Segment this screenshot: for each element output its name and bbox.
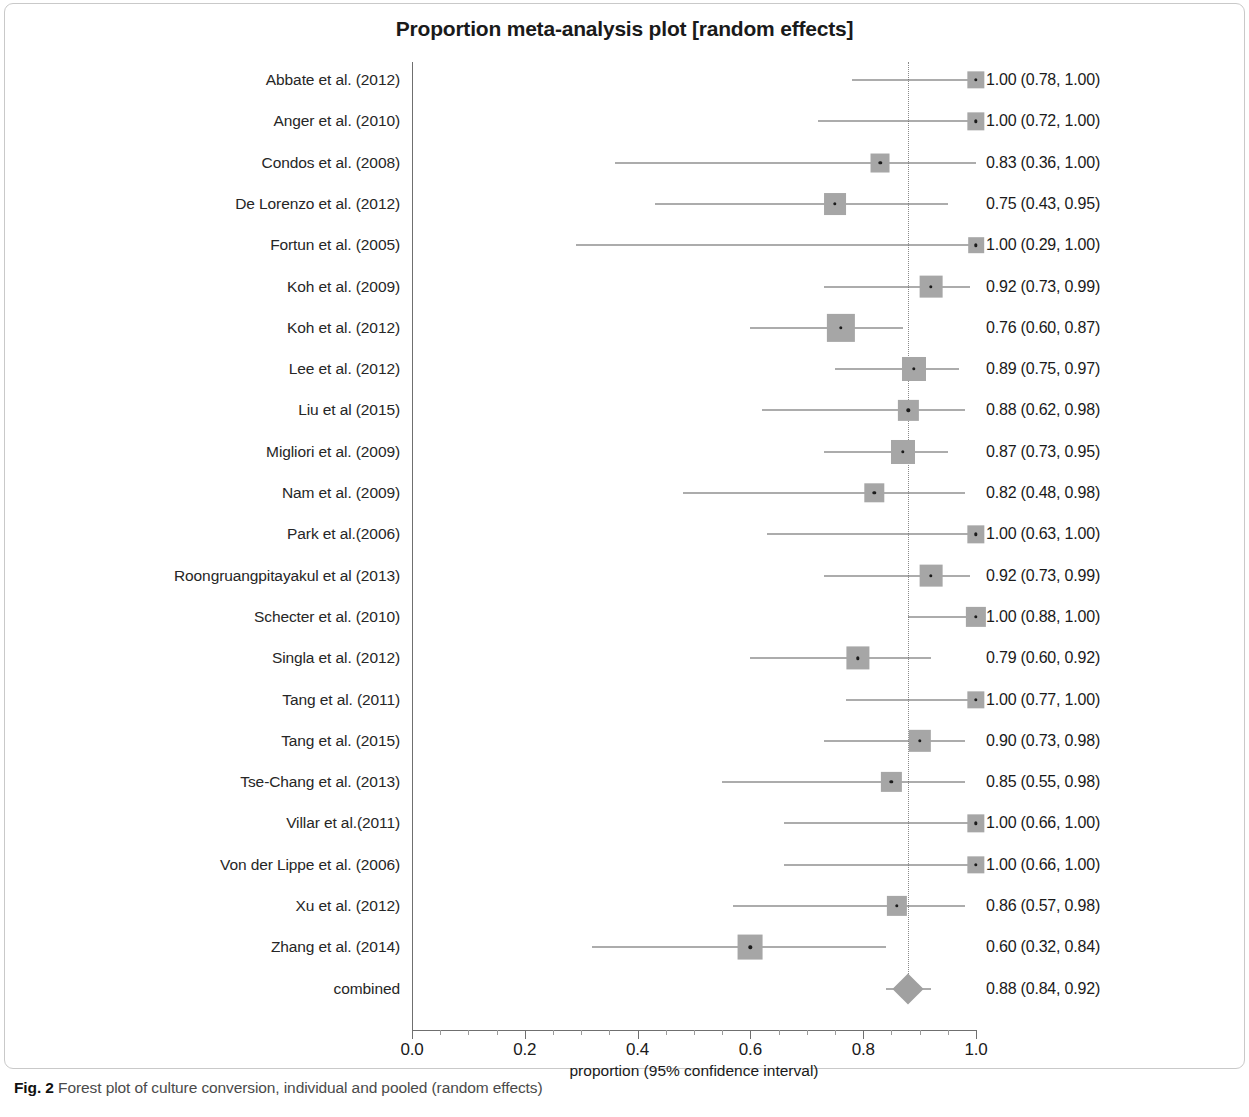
- study-label: Abbate et al. (2012): [266, 71, 400, 89]
- x-axis-title: proportion (95% confidence interval): [412, 1062, 976, 1080]
- confidence-interval-line: [750, 658, 930, 659]
- confidence-interval-line: [824, 451, 948, 452]
- confidence-interval-line: [846, 699, 976, 700]
- confidence-interval-line: [824, 740, 965, 741]
- x-axis-minor-tick: [609, 1030, 610, 1035]
- x-axis-tick: [638, 1030, 639, 1039]
- confidence-interval-line: [852, 80, 976, 81]
- confidence-interval-line: [784, 823, 976, 824]
- x-axis-tick-label: 1.0: [964, 1040, 987, 1060]
- x-axis-minor-tick: [497, 1030, 498, 1035]
- page-title: Proportion meta-analysis plot [random ef…: [0, 17, 1249, 41]
- x-axis-minor-tick: [666, 1030, 667, 1035]
- x-axis-minor-tick: [440, 1030, 441, 1035]
- x-axis-tick-label: 0.2: [513, 1040, 536, 1060]
- confidence-interval-line: [762, 410, 965, 411]
- study-estimate-text: 1.00 (0.78, 1.00): [986, 71, 1100, 89]
- confidence-interval-line: [835, 369, 959, 370]
- confidence-interval-line: [655, 203, 948, 204]
- caption-text: Forest plot of culture conversion, indiv…: [58, 1079, 542, 1096]
- study-estimate-text: 1.00 (0.88, 1.00): [986, 608, 1100, 626]
- confidence-interval-line: [615, 162, 976, 163]
- study-label: Zhang et al. (2014): [271, 938, 400, 956]
- study-label: Schecter et al. (2010): [254, 608, 400, 626]
- x-axis-minor-tick: [920, 1030, 921, 1035]
- confidence-interval-line: [576, 245, 976, 246]
- confidence-interval-line: [767, 534, 976, 535]
- study-estimate-text: 0.89 (0.75, 0.97): [986, 360, 1100, 378]
- study-label: Tang et al. (2011): [282, 691, 400, 709]
- study-estimate-text: 1.00 (0.77, 1.00): [986, 691, 1100, 709]
- study-estimate-text: 0.60 (0.32, 0.84): [986, 938, 1100, 956]
- figure-caption: Fig. 2 Forest plot of culture conversion…: [14, 1079, 1214, 1097]
- confidence-interval-line: [683, 493, 965, 494]
- study-estimate-text: 0.87 (0.73, 0.95): [986, 443, 1100, 461]
- x-axis-tick-label: 0.8: [852, 1040, 875, 1060]
- study-estimate-text: 0.83 (0.36, 1.00): [986, 154, 1100, 172]
- study-label: De Lorenzo et al. (2012): [235, 195, 400, 213]
- study-label: Xu et al. (2012): [296, 897, 400, 915]
- x-axis-minor-tick: [891, 1030, 892, 1035]
- study-estimate-text: 0.90 (0.73, 0.98): [986, 732, 1100, 750]
- study-estimate-text: 1.00 (0.66, 1.00): [986, 814, 1100, 832]
- study-estimate-text: 1.00 (0.29, 1.00): [986, 236, 1100, 254]
- confidence-interval-line: [824, 286, 971, 287]
- x-axis-tick: [412, 1030, 413, 1039]
- x-axis-minor-tick: [835, 1030, 836, 1035]
- study-estimate-text: 1.00 (0.66, 1.00): [986, 856, 1100, 874]
- study-label: Lee et al. (2012): [289, 360, 400, 378]
- pooled-effect-diamond: [893, 973, 924, 1004]
- combined-label: combined: [334, 980, 400, 998]
- study-label: Anger et al. (2010): [274, 112, 400, 130]
- study-label: Roongruangpitayakul et al (2013): [174, 567, 400, 585]
- caption-label: Fig. 2: [14, 1079, 54, 1096]
- study-label: Migliori et al. (2009): [266, 443, 400, 461]
- x-axis-tick: [976, 1030, 977, 1039]
- study-estimate-text: 0.82 (0.48, 0.98): [986, 484, 1100, 502]
- study-estimate-text: 1.00 (0.72, 1.00): [986, 112, 1100, 130]
- x-axis-tick-label: 0.4: [626, 1040, 649, 1060]
- confidence-interval-line: [784, 864, 976, 865]
- study-label: Tang et al. (2015): [281, 732, 400, 750]
- confidence-interval-line: [733, 906, 964, 907]
- x-axis-minor-tick: [468, 1030, 469, 1035]
- combined-estimate-text: 0.88 (0.84, 0.92): [986, 980, 1100, 998]
- study-label: Von der Lippe et al. (2006): [220, 856, 400, 874]
- study-label: Park et al.(2006): [287, 525, 400, 543]
- x-axis-tick-label: 0.0: [400, 1040, 423, 1060]
- study-estimate-text: 0.79 (0.60, 0.92): [986, 649, 1100, 667]
- study-estimate-text: 0.85 (0.55, 0.98): [986, 773, 1100, 791]
- study-estimate-text: 0.88 (0.62, 0.98): [986, 401, 1100, 419]
- study-estimate-text: 0.92 (0.73, 0.99): [986, 278, 1100, 296]
- study-estimate-text: 0.76 (0.60, 0.87): [986, 319, 1100, 337]
- x-axis-minor-tick: [581, 1030, 582, 1035]
- x-axis-minor-tick: [722, 1030, 723, 1035]
- x-axis-minor-tick: [948, 1030, 949, 1035]
- confidence-interval-line: [818, 121, 976, 122]
- x-axis-tick: [750, 1030, 751, 1039]
- x-axis-tick-label: 0.6: [739, 1040, 762, 1060]
- study-label: Fortun et al. (2005): [270, 236, 400, 254]
- study-label: Tse-Chang et al. (2013): [240, 773, 400, 791]
- confidence-interval-line: [722, 782, 965, 783]
- study-label: Nam et al. (2009): [282, 484, 400, 502]
- study-label: Condos et al. (2008): [262, 154, 400, 172]
- y-axis-spine: [412, 62, 413, 1030]
- study-estimate-text: 0.86 (0.57, 0.98): [986, 897, 1100, 915]
- x-axis-minor-tick: [694, 1030, 695, 1035]
- x-axis-minor-tick: [553, 1030, 554, 1035]
- study-estimate-text: 0.75 (0.43, 0.95): [986, 195, 1100, 213]
- study-label: Koh et al. (2012): [287, 319, 400, 337]
- x-axis-tick: [863, 1030, 864, 1039]
- study-label: Villar et al.(2011): [286, 814, 400, 832]
- study-label: Koh et al. (2009): [287, 278, 400, 296]
- study-estimate-text: 1.00 (0.63, 1.00): [986, 525, 1100, 543]
- study-label: Liu et al (2015): [298, 401, 400, 419]
- x-axis-minor-tick: [807, 1030, 808, 1035]
- confidence-interval-line: [824, 575, 971, 576]
- x-axis-tick: [525, 1030, 526, 1039]
- study-estimate-text: 0.92 (0.73, 0.99): [986, 567, 1100, 585]
- x-axis-minor-tick: [779, 1030, 780, 1035]
- forest-plot-figure: Proportion meta-analysis plot [random ef…: [0, 0, 1249, 1117]
- study-label: Singla et al. (2012): [272, 649, 400, 667]
